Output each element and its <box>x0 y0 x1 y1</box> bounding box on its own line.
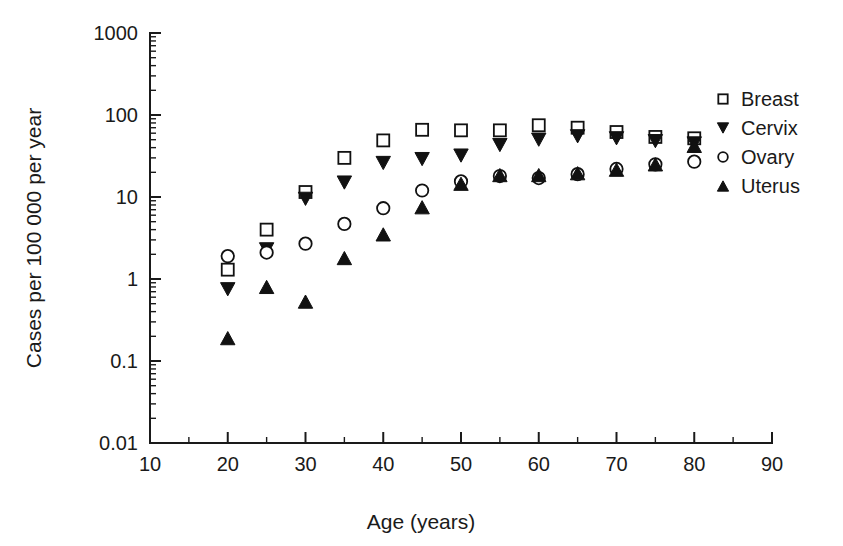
legend-marker-breast <box>718 94 727 103</box>
x-tick-label: 80 <box>683 453 705 475</box>
x-tick-label: 60 <box>528 453 550 475</box>
data-point-ovary <box>338 218 350 230</box>
data-point-breast <box>455 124 467 136</box>
data-point-ovary <box>222 250 234 262</box>
legend-marker-uterus <box>717 181 728 191</box>
x-axis-title: Age (years) <box>367 510 476 533</box>
data-point-uterus <box>337 251 351 264</box>
legend-label-uterus: Uterus <box>741 175 800 197</box>
y-tick-label: 0.01 <box>99 432 138 454</box>
data-point-uterus <box>298 295 312 308</box>
legend-marker-cervix <box>717 123 728 133</box>
data-point-ovary <box>688 155 700 167</box>
data-point-cervix <box>376 156 390 169</box>
data-point-breast <box>338 152 350 164</box>
x-tick-label: 10 <box>139 453 161 475</box>
data-point-uterus <box>376 228 390 241</box>
y-tick-label: 100 <box>105 104 138 126</box>
data-point-breast <box>494 124 506 136</box>
x-axis-tick-labels: 102030405060708090 <box>139 453 783 475</box>
x-tick-label: 20 <box>217 453 239 475</box>
data-point-cervix <box>570 130 584 143</box>
x-tick-label: 30 <box>294 453 316 475</box>
data-point-breast <box>261 224 273 236</box>
y-tick-label: 10 <box>116 186 138 208</box>
x-axis-ticks <box>150 432 772 443</box>
data-point-ovary <box>377 202 389 214</box>
legend-label-cervix: Cervix <box>741 117 798 139</box>
legend-label-ovary: Ovary <box>741 146 794 168</box>
chart-figure: 0.010.11101001000 102030405060708090 Age… <box>0 0 843 546</box>
y-tick-label: 1 <box>127 268 138 290</box>
data-point-uterus <box>415 201 429 214</box>
data-point-uterus <box>221 332 235 345</box>
x-tick-label: 50 <box>450 453 472 475</box>
data-point-breast <box>377 134 389 146</box>
data-point-uterus <box>259 280 273 293</box>
x-tick-label: 70 <box>605 453 627 475</box>
data-point-breast <box>533 119 545 131</box>
data-point-cervix <box>454 149 468 162</box>
legend-marker-ovary <box>718 152 728 162</box>
series-ovary-points <box>222 155 701 262</box>
scatter-plot-svg: 0.010.11101001000 102030405060708090 Age… <box>0 0 843 546</box>
data-point-cervix <box>532 133 546 146</box>
y-tick-label: 0.1 <box>110 350 138 372</box>
data-point-breast <box>222 264 234 276</box>
x-tick-label: 90 <box>761 453 783 475</box>
data-point-cervix <box>221 283 235 296</box>
series-breast-points <box>222 119 701 275</box>
data-point-ovary <box>260 246 272 258</box>
axis-lines <box>150 33 772 443</box>
data-point-cervix <box>337 176 351 189</box>
data-point-ovary <box>416 184 428 196</box>
data-point-ovary <box>299 237 311 249</box>
chart-legend: BreastCervixOvaryUterus <box>717 88 800 197</box>
y-axis-title: Cases per 100 000 per year <box>22 108 45 368</box>
data-point-cervix <box>415 152 429 165</box>
data-point-breast <box>416 124 428 136</box>
y-axis-tick-labels: 0.010.11101001000 <box>94 22 139 454</box>
series-uterus-points <box>221 139 702 344</box>
y-tick-label: 1000 <box>94 22 139 44</box>
y-axis-ticks <box>150 33 161 443</box>
series-cervix-points <box>221 130 702 296</box>
legend-label-breast: Breast <box>741 88 799 110</box>
x-tick-label: 40 <box>372 453 394 475</box>
data-point-cervix <box>493 138 507 151</box>
